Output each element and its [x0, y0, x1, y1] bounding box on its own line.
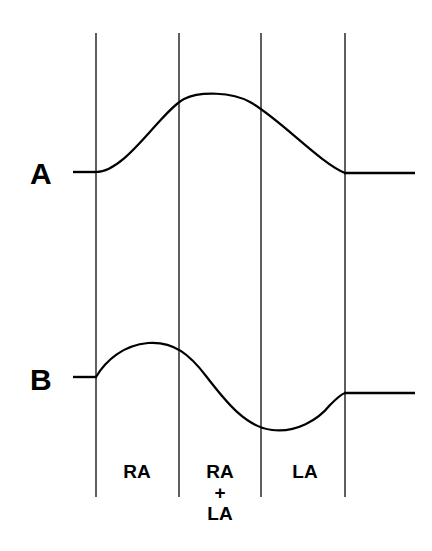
region-ra-plus-la-label-line3: LA [207, 503, 233, 524]
waveform-diagram: A B RA RA + LA LA [0, 0, 432, 551]
waveform-svg: A B RA RA + LA LA [0, 0, 432, 551]
trace-b-label: B [30, 363, 52, 396]
region-ra-plus-la-label-line1: RA [206, 461, 234, 482]
region-ra-plus-la-label-line2: + [214, 482, 225, 503]
region-label-group: RA RA + LA LA [123, 461, 318, 524]
region-la-label: LA [292, 461, 318, 482]
trace-a-group: A [30, 94, 415, 190]
trace-a-label: A [30, 157, 52, 190]
divider-group [96, 33, 345, 497]
trace-b-group: B [30, 343, 415, 431]
trace-a-waveform [96, 94, 345, 173]
trace-b-waveform [96, 343, 345, 431]
region-ra-label: RA [123, 461, 151, 482]
